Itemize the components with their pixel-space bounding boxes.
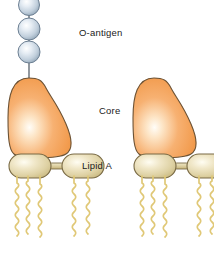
fatty-acid-chain [197, 176, 201, 236]
fatty-acid-chain [210, 176, 214, 234]
o-antigen-label: O-antigen [79, 27, 123, 38]
core-polysaccharide [8, 78, 71, 158]
o-antigen-sugar-sphere [19, 0, 40, 16]
lps-unit-left [8, 78, 104, 237]
fatty-acid-chain [140, 176, 144, 236]
fatty-acid-chain [26, 176, 30, 234]
fatty-acid-chain [151, 176, 155, 234]
o-antigen-sugar-sphere [18, 41, 40, 63]
o-antigen-sugar-chain [18, 0, 40, 78]
fatty-acid-chain [86, 176, 90, 234]
lipid-a-glucosamine [9, 154, 51, 178]
fatty-acid-chain-group [140, 176, 167, 237]
lps-diagram: O-antigen Core Lipid A [0, 0, 214, 260]
o-antigen-sugar-sphere [18, 18, 40, 40]
lipid-a-bridge [50, 163, 63, 169]
fatty-acid-chain-group [15, 176, 42, 237]
lps-illustration [0, 0, 214, 260]
fatty-acid-chain [38, 176, 42, 237]
core-label: Core [99, 105, 120, 116]
lipid-a-glucosamine [187, 154, 214, 178]
lipid-a-glucosamine [134, 154, 176, 178]
fatty-acid-chain [72, 176, 76, 236]
lipid-a-label: Lipid A [82, 160, 112, 171]
fatty-acid-chain [163, 176, 167, 237]
lipid-a-bridge [175, 163, 188, 169]
core-polysaccharide [133, 78, 196, 158]
fatty-acid-chain-group [197, 176, 214, 236]
fatty-acid-chain [15, 176, 19, 236]
fatty-acid-chain-group [72, 176, 90, 236]
lps-unit-right [133, 78, 214, 237]
